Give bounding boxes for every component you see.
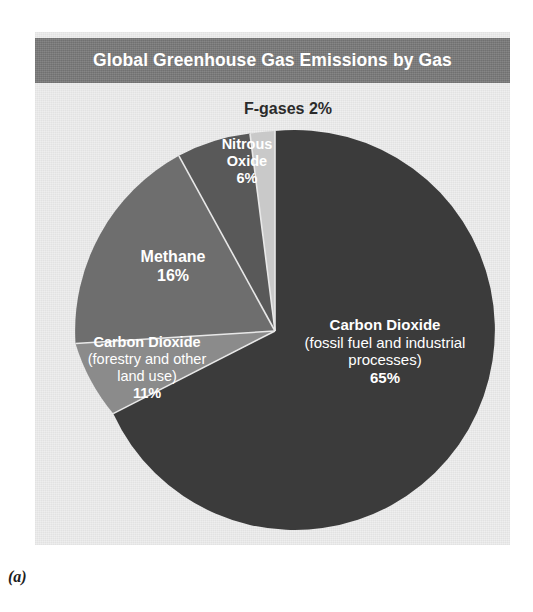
chart-title: Global Greenhouse Gas Emissions by Gas (93, 50, 452, 71)
figure-panel: Global Greenhouse Gas Emissions by Gas (35, 32, 510, 545)
figure-caption: (a) (8, 568, 27, 586)
pie-chart-svg (35, 32, 510, 545)
pie-chart (35, 32, 510, 545)
chart-title-banner: Global Greenhouse Gas Emissions by Gas (35, 38, 510, 83)
